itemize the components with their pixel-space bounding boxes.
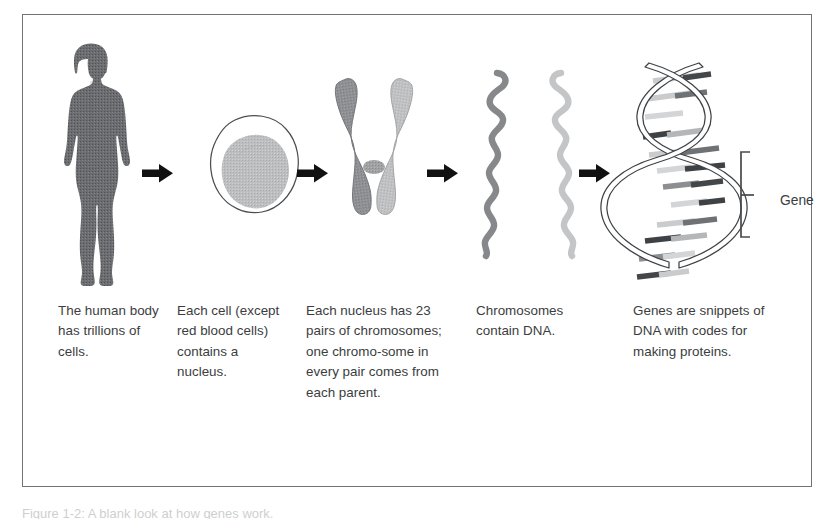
cell-with-nucleus-icon xyxy=(211,116,299,213)
figure-caption: Figure 1-2: A blank look at how genes wo… xyxy=(22,506,622,519)
dna-double-helix-icon xyxy=(601,63,747,277)
figure-frame: The human body has trillions of cells. E… xyxy=(22,14,812,487)
chromosome-x-shape-icon xyxy=(334,78,415,216)
human-body-silhouette-icon xyxy=(64,44,130,287)
caption-chromosomes: Chromosomes contain DNA. xyxy=(476,301,606,342)
caption-dna: Genes are snippets of DNA with codes for… xyxy=(633,301,783,362)
arrow-body-to-cell-icon xyxy=(142,164,173,183)
stage-captions: The human body has trillions of cells. E… xyxy=(23,301,813,481)
arrow-chromosome-to-chromosomes-icon xyxy=(427,164,458,183)
arrow-chromosomes-to-dna-icon xyxy=(579,164,610,183)
gene-bracket-icon xyxy=(741,152,754,237)
caption-body: The human body has trillions of cells. xyxy=(58,301,166,362)
caption-chromosome: Each nucleus has 23 pairs of chromosomes… xyxy=(306,301,442,403)
arrow-cell-to-chromosome-icon xyxy=(297,164,328,183)
chromosome-strands-pair-icon xyxy=(485,73,573,256)
figure-root: The human body has trillions of cells. E… xyxy=(0,0,830,519)
caption-cell: Each cell (except red blood cells) conta… xyxy=(177,301,289,383)
gene-label: Gene xyxy=(780,193,814,209)
